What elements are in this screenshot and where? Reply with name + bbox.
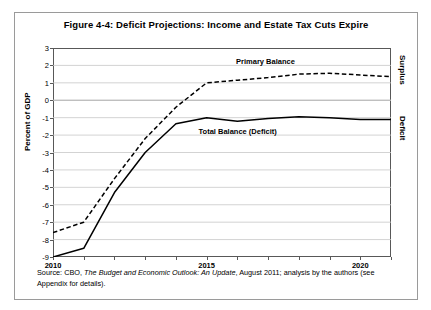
figure-frame: Figure 4-4: Deficit Projections: Income … xyxy=(14,12,418,300)
y-tick-label: -4 xyxy=(42,165,49,174)
y-tick-mark xyxy=(50,48,53,49)
y-tick-label: -1 xyxy=(42,113,49,122)
x-tick-mark xyxy=(391,257,392,260)
source-publication: The Budget and Economic Outlook: An Upda… xyxy=(84,268,235,277)
x-tick-mark xyxy=(237,257,238,260)
y-tick-label: -2 xyxy=(42,131,49,140)
deficit-label: Deficit xyxy=(398,116,407,140)
y-tick-mark xyxy=(50,135,53,136)
y-tick-label: 3 xyxy=(45,44,49,53)
x-tick-mark xyxy=(360,257,361,260)
y-tick-label: -6 xyxy=(42,200,49,209)
x-tick-mark xyxy=(145,257,146,260)
source-prefix: Source: CBO, xyxy=(37,268,84,277)
y-tick-label: -5 xyxy=(42,183,49,192)
x-tick-mark xyxy=(176,257,177,260)
y-tick-label: -3 xyxy=(42,148,49,157)
y-tick-mark xyxy=(50,240,53,241)
y-tick-mark xyxy=(50,222,53,223)
series-label-primary-balance: Primary Balance xyxy=(236,57,295,66)
y-tick-mark xyxy=(50,153,53,154)
y-tick-label: 0 xyxy=(45,96,49,105)
x-tick-mark xyxy=(114,257,115,260)
y-tick-label: -7 xyxy=(42,218,49,227)
y-tick-label: -8 xyxy=(42,235,49,244)
y-axis-label: Percent of GDP xyxy=(23,92,32,151)
y-tick-label: 2 xyxy=(45,61,49,70)
plot-area: 3210-1-2-3-4-5-6-7-8-9 201020152020 Prim… xyxy=(53,48,391,257)
source-note: Source: CBO, The Budget and Economic Out… xyxy=(37,268,405,289)
y-tick-mark xyxy=(50,118,53,119)
x-tick-mark xyxy=(207,257,208,260)
x-tick-mark xyxy=(299,257,300,260)
y-tick-label: 1 xyxy=(45,78,49,87)
x-tick-mark xyxy=(53,257,54,260)
y-tick-mark xyxy=(50,83,53,84)
y-tick-mark xyxy=(50,65,53,66)
y-tick-mark xyxy=(50,100,53,101)
surplus-label: Surplus xyxy=(398,55,407,85)
x-tick-mark xyxy=(84,257,85,260)
x-tick-mark xyxy=(330,257,331,260)
y-tick-mark xyxy=(50,205,53,206)
y-tick-mark xyxy=(50,170,53,171)
chart-svg xyxy=(53,48,391,257)
page-title: Figure 4-4: Deficit Projections: Income … xyxy=(15,19,417,30)
x-tick-mark xyxy=(268,257,269,260)
series-label-total-balance: Total Balance (Deficit) xyxy=(199,127,277,136)
y-tick-mark xyxy=(50,187,53,188)
